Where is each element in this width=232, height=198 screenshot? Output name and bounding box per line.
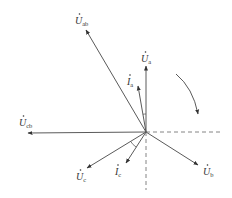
label-ub: Ub <box>203 164 213 178</box>
svg-text:Ia: Ia <box>126 76 133 88</box>
vector-uc <box>87 132 146 168</box>
phasor-dot-icon <box>145 51 147 53</box>
phasor-dot-icon <box>80 169 82 171</box>
vector-uab <box>86 30 146 132</box>
rotation-direction-icon <box>176 74 198 114</box>
angle-arc-uc-ic <box>131 141 137 147</box>
rotation-arrow <box>176 74 198 114</box>
phasor-dot-icon <box>129 74 131 76</box>
phasor-diagram: UaIaUabUcbUcIcUb <box>0 0 232 198</box>
vector-ucb <box>28 132 146 133</box>
phasor-dot-icon <box>207 164 209 166</box>
vector-ic <box>126 132 146 163</box>
svg-text:Uc: Uc <box>76 171 86 183</box>
svg-text:Ucb: Ucb <box>19 117 32 129</box>
label-uab: Uab <box>75 13 88 27</box>
label-ic: Ic <box>114 164 121 178</box>
svg-text:Ic: Ic <box>114 166 121 178</box>
svg-text:Uab: Uab <box>75 15 88 27</box>
label-ua: Ua <box>141 51 151 65</box>
phasor-vectors <box>28 30 198 168</box>
phasor-dot-icon <box>79 13 81 15</box>
label-ia: Ia <box>126 74 133 88</box>
svg-text:Ua: Ua <box>141 53 151 65</box>
vector-ub <box>146 132 198 165</box>
label-ucb: Ucb <box>19 115 32 129</box>
label-uc: Uc <box>76 169 86 183</box>
reference-axes <box>146 132 222 190</box>
phasor-dot-icon <box>117 164 119 166</box>
phasor-labels: UaIaUabUcbUcIcUb <box>19 13 213 183</box>
phasor-dot-icon <box>23 115 25 117</box>
svg-text:Ub: Ub <box>203 166 213 178</box>
